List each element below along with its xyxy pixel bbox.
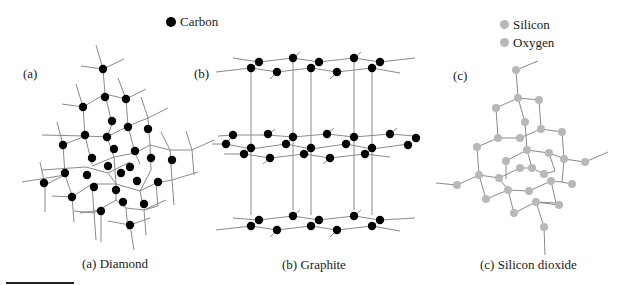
- silicon-dioxide-atoms: [453, 66, 589, 231]
- diamond-lattice: [22, 45, 214, 250]
- silicon-dioxide-lattice: [436, 61, 608, 255]
- graphite-carbon-atoms: [222, 54, 420, 234]
- graphite-lattice: [212, 52, 415, 237]
- crystal-structures-diagram: [0, 0, 628, 285]
